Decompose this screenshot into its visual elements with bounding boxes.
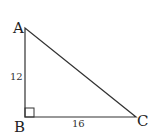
- vertex-label-c: C: [137, 112, 148, 130]
- vertex-label-b: B: [14, 118, 25, 136]
- right-angle-marker: [25, 108, 34, 117]
- triangle-abc: [25, 28, 136, 117]
- triangle-diagram: A B C 12 16: [0, 0, 150, 140]
- side-label-ab: 12: [10, 71, 23, 82]
- side-label-bc: 16: [72, 118, 85, 129]
- vertex-label-a: A: [12, 19, 24, 37]
